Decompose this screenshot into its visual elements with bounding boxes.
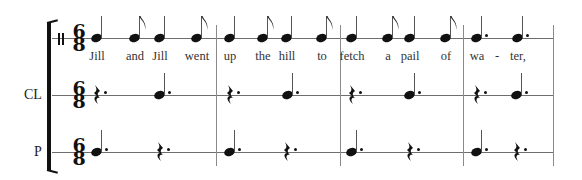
flag-icon	[392, 15, 402, 31]
lyric-syllable: fetch	[340, 49, 365, 64]
barline	[463, 25, 464, 166]
augmentation-dot	[104, 91, 107, 94]
stem	[414, 16, 415, 37]
augmentation-dot	[485, 34, 488, 37]
stem	[356, 16, 357, 37]
augmentation-dot	[418, 91, 421, 94]
lyric-syllable: Jill	[89, 49, 104, 64]
stem	[481, 16, 482, 37]
stem	[292, 73, 293, 94]
lyric-syllable: went	[185, 49, 209, 64]
quarter-rest-icon	[92, 84, 106, 106]
stem	[101, 130, 102, 151]
time-signature-voice: 68	[72, 25, 86, 51]
time-signature-cl: 68	[72, 82, 86, 108]
lyric-syllable: up	[224, 49, 237, 64]
lyric-syllable: ter,	[510, 49, 526, 64]
lyric-syllable: of	[441, 49, 451, 64]
stem	[414, 73, 415, 94]
lyric-syllable: and	[126, 49, 144, 64]
percussion-clef-icon	[58, 33, 66, 45]
quarter-rest-icon	[472, 84, 486, 106]
stem	[521, 73, 522, 94]
lyric-syllable: a	[385, 49, 391, 64]
bracket-top-cap	[47, 19, 58, 24]
barline	[340, 25, 341, 166]
flag-icon	[326, 15, 336, 31]
lyric-syllable: -	[495, 49, 499, 64]
flag-icon	[201, 15, 211, 31]
lyric-syllable: pail	[401, 49, 420, 64]
stem	[481, 130, 482, 151]
stem	[291, 16, 292, 37]
augmentation-dot	[238, 148, 241, 151]
stem	[164, 73, 165, 94]
stem	[234, 130, 235, 151]
augmentation-dot	[294, 148, 297, 151]
lyric-syllable: wa	[470, 49, 485, 64]
quarter-rest-icon	[347, 84, 361, 106]
augmentation-dot	[525, 91, 528, 94]
augmentation-dot	[237, 91, 240, 94]
stem	[234, 16, 235, 37]
music-score: CL P 68 68 68 JillandJillwentupthehillto…	[0, 0, 582, 180]
quarter-rest-icon	[225, 84, 239, 106]
lyric-syllable: hill	[279, 49, 296, 64]
augmentation-dot	[417, 148, 420, 151]
augmentation-dot	[484, 91, 487, 94]
stem	[164, 16, 165, 37]
augmentation-dot	[167, 148, 170, 151]
quarter-rest-icon	[155, 141, 169, 163]
flag-icon	[139, 15, 149, 31]
stem	[101, 16, 102, 37]
instrument-label-cl: CL	[24, 87, 42, 103]
stem	[356, 130, 357, 151]
system-bracket	[47, 23, 51, 171]
quarter-rest-icon	[512, 141, 526, 163]
flag-icon	[267, 15, 277, 31]
augmentation-dot	[526, 34, 529, 37]
time-signature-p: 68	[72, 139, 86, 165]
flag-icon	[450, 15, 460, 31]
augmentation-dot	[296, 91, 299, 94]
lyric-syllable: to	[317, 49, 327, 64]
barline	[553, 25, 554, 166]
lyric-syllable: the	[255, 49, 270, 64]
augmentation-dot	[485, 148, 488, 151]
augmentation-dot	[105, 148, 108, 151]
barline	[216, 25, 217, 166]
augmentation-dot	[524, 148, 527, 151]
augmentation-dot	[360, 148, 363, 151]
augmentation-dot	[168, 91, 171, 94]
augmentation-dot	[359, 91, 362, 94]
quarter-rest-icon	[405, 141, 419, 163]
lyric-syllable: Jill	[152, 49, 167, 64]
stem	[522, 16, 523, 37]
instrument-label-p: P	[34, 144, 42, 160]
quarter-rest-icon	[282, 141, 296, 163]
bracket-bottom-cap	[47, 169, 58, 174]
